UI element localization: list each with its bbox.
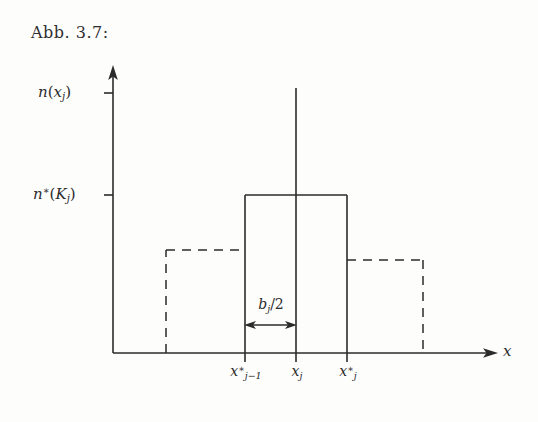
x-tick-label-x-star-j-minus-1: x∗j−1 (230, 363, 261, 379)
x-axis (113, 348, 498, 362)
x-axis-label: x (503, 342, 511, 360)
left-neighbour-bin (166, 250, 245, 353)
bj-half-measure-arrow (244, 321, 297, 329)
y-axis-label-n-star-of-Kj: n∗(Kj) (33, 185, 76, 203)
x-tick-label-x-j: xj (292, 363, 303, 379)
figure-container: Abb. 3.7: (0, 0, 538, 422)
y-axis-label-n-of-xj: n(xj) (38, 83, 71, 101)
right-neighbour-bin (347, 260, 423, 353)
x-tick-label-x-star-j: x∗j (339, 363, 356, 379)
figure-drawing (0, 0, 538, 422)
bin-width-label: bj/2 (258, 296, 284, 312)
y-axis (104, 65, 118, 353)
